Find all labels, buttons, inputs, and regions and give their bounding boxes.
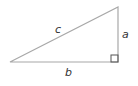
triangle xyxy=(10,7,118,62)
right-triangle-diagram: c a b xyxy=(0,0,138,86)
label-a: a xyxy=(122,28,129,41)
label-b: b xyxy=(65,66,72,79)
label-c: c xyxy=(55,23,61,36)
right-angle-marker xyxy=(111,55,118,62)
